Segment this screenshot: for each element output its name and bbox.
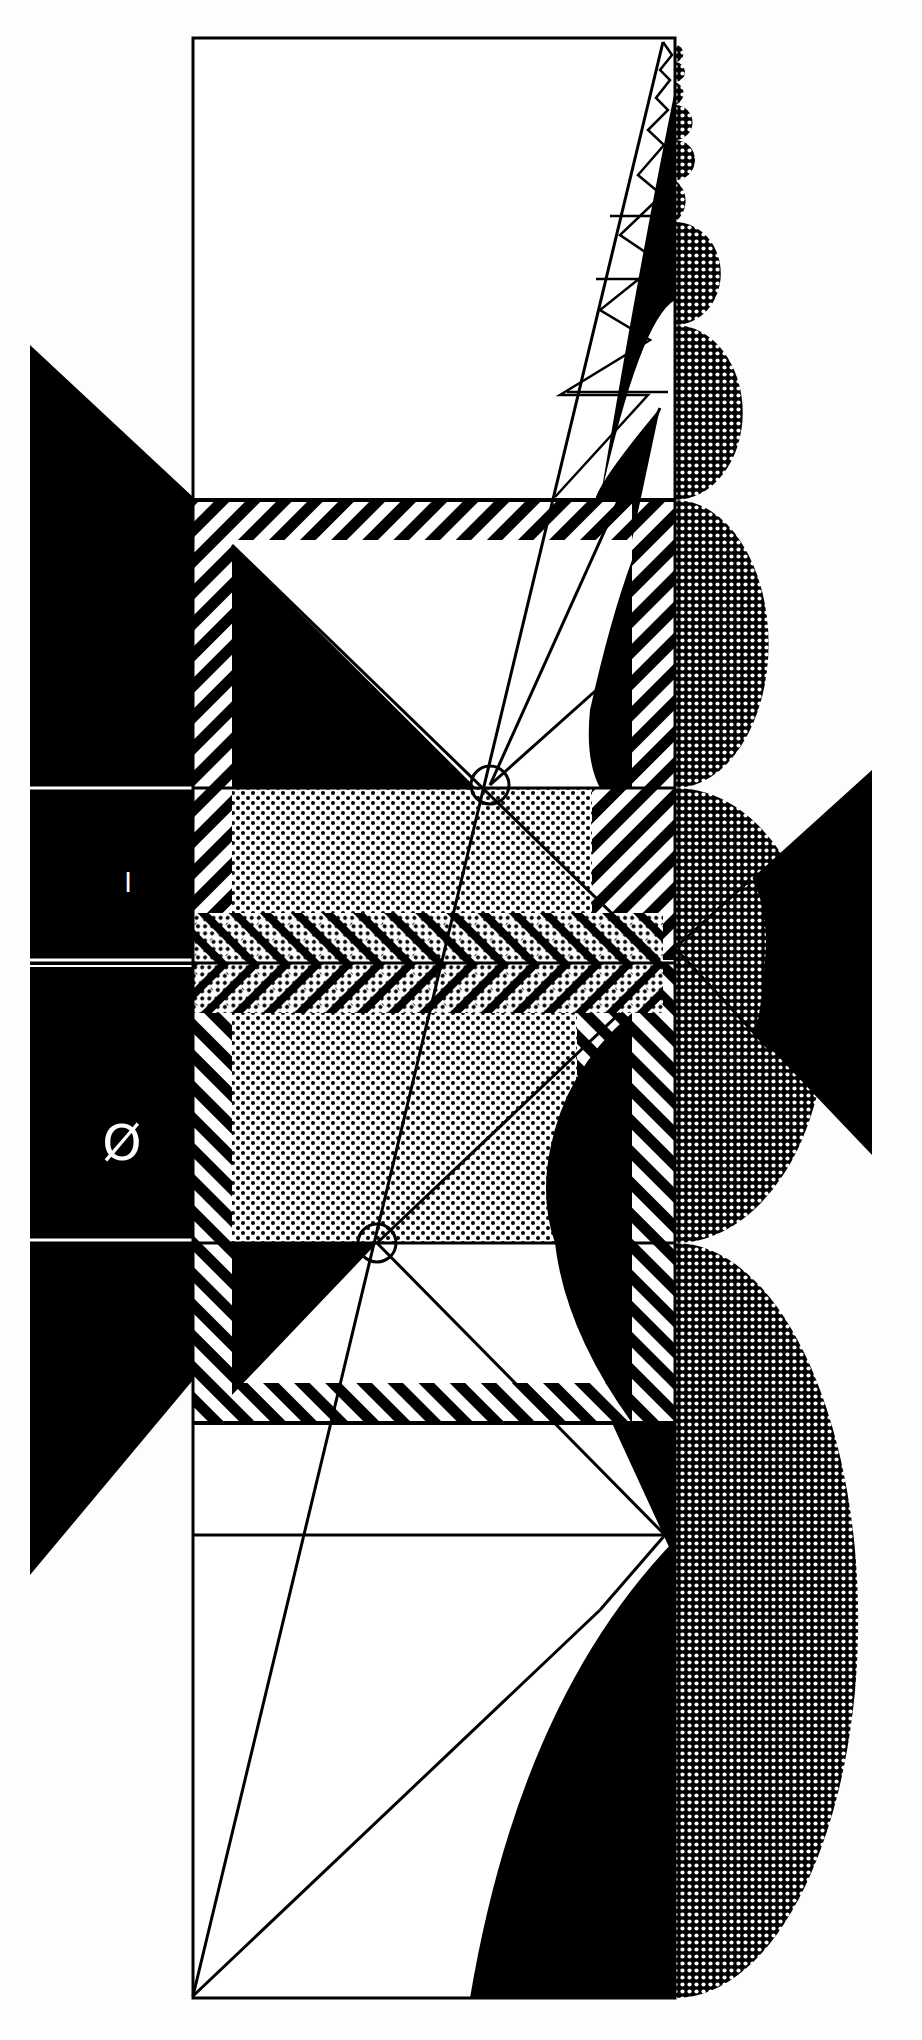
glyph-phi-label: Ø [92,1118,152,1168]
chevron-band-upper [193,913,663,963]
geometric-composition [0,0,922,2040]
chevron-band-lower [193,963,663,1013]
glyph-one-label: I [116,870,140,896]
dot-zone-lower [232,1013,577,1243]
left-black-panel [30,345,193,1575]
dot-zone-upper [232,788,592,913]
